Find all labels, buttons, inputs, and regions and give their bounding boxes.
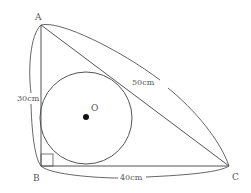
dimension-arc-ab — [30, 25, 41, 93]
right-triangle — [41, 25, 229, 166]
vertex-label-b: B — [33, 173, 40, 183]
center-point — [83, 114, 89, 120]
dimension-arc-ac — [41, 24, 160, 80]
dimension-arc-ab-lower — [31, 104, 41, 166]
center-label-o: O — [91, 103, 98, 113]
right-angle-marker — [41, 154, 53, 166]
vertex-label-c: C — [232, 172, 239, 182]
side-ac — [41, 25, 229, 166]
dimension-arc-bc-right — [146, 166, 229, 177]
vertex-label-a: A — [34, 12, 42, 22]
side-length-ac: 50cm — [132, 78, 155, 87]
dimension-arc-bc — [41, 166, 118, 178]
dimension-arcs — [30, 24, 229, 178]
side-length-bc: 40cm — [120, 173, 143, 182]
side-length-ab: 30cm — [17, 94, 40, 103]
geometry-diagram: A B C O 30cm 50cm 40cm — [0, 0, 251, 193]
